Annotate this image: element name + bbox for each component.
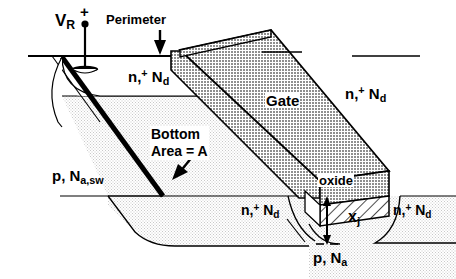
n-plus-fl-n: N (263, 202, 273, 218)
xj-sub: j (357, 215, 360, 227)
n-plus-front-right-label: n,+ Nd (393, 203, 432, 220)
p-substrate-label: p, Na (313, 250, 347, 268)
voltage-symbol: V (55, 11, 66, 30)
n-plus-right-n: N (369, 85, 380, 102)
p-sidewall-sub: a,sw (80, 174, 103, 186)
diagram-canvas (0, 0, 456, 279)
left-junction-curve (52, 57, 62, 127)
voltage-subscript: R (66, 18, 75, 32)
perimeter-arrow (154, 30, 166, 55)
n-plus-top-base: n, (128, 68, 141, 85)
p-sidewall-label: p, Na,sw (52, 168, 104, 186)
p-sidewall-n: N (70, 167, 81, 184)
voltage-source-label: VR (55, 12, 75, 32)
oxide-label: oxide (318, 174, 354, 187)
p-substrate-base: p, (313, 249, 326, 266)
n-plus-fr-sub: d (425, 209, 431, 220)
n-plus-fr-n: N (415, 202, 425, 218)
n-plus-top-sup: + (141, 67, 147, 79)
p-substrate-sub: a (341, 256, 347, 268)
xj-base: x (348, 208, 357, 225)
n-plus-fr-sup: + (405, 202, 411, 213)
perimeter-arrowhead (154, 40, 166, 55)
junction-depth-label: xj (348, 209, 360, 228)
n-plus-front-left-label: n,+ Nd (241, 203, 280, 220)
n-plus-fl-sub: d (273, 209, 279, 220)
p-sidewall-base: p, (52, 167, 65, 184)
p-substrate-n: N (331, 249, 342, 266)
bottom-area-line2: Area = A (151, 143, 208, 160)
n-plus-right-sup: + (358, 84, 364, 96)
perimeter-label: Perimeter (106, 13, 166, 26)
n-plus-fl-base: n, (241, 202, 253, 218)
semiconductor-cross-section-figure: VR + Perimeter n,+ Nd Gate n,+ Nd Bottom… (0, 0, 456, 279)
n-plus-right-sub: d (380, 92, 387, 104)
n-plus-top-label: n,+ Nd (128, 68, 169, 86)
voltage-polarity-label: + (80, 4, 89, 19)
bottom-area-label: Bottom Area = A (150, 126, 209, 160)
n-plus-right-base: n, (345, 85, 358, 102)
n-plus-top-sub: d (163, 75, 170, 87)
n-plus-fl-sup: + (253, 202, 259, 213)
bottom-area-line1: Bottom (151, 126, 208, 143)
n-plus-fr-base: n, (393, 202, 405, 218)
n-plus-right-label: n,+ Nd (345, 85, 386, 103)
n-plus-top-n: N (152, 68, 163, 85)
gate-label: Gate (265, 93, 300, 108)
